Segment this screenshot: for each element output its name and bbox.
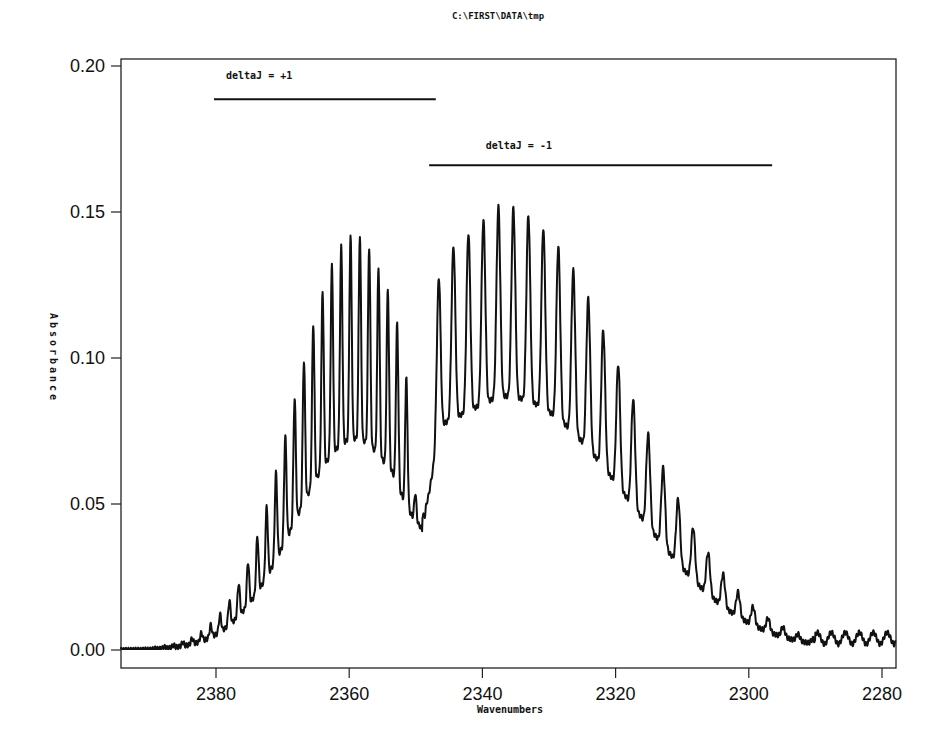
x-tick-label: 2340 (462, 684, 502, 704)
x-tick-label: 2360 (329, 684, 369, 704)
spectrum-chart: C:\FIRST\DATA\tmp 0.000.050.100.150.20 2… (0, 0, 939, 751)
y-axis: 0.000.050.100.150.20 (70, 56, 121, 660)
y-tick-label: 0.10 (70, 348, 105, 368)
y-axis-title: Absorbance (48, 313, 59, 403)
branch-label: deltaJ = -1 (486, 140, 552, 151)
x-tick-label: 2300 (729, 684, 769, 704)
chart-title: C:\FIRST\DATA\tmp (452, 11, 545, 21)
y-tick-label: 0.20 (70, 56, 105, 76)
x-tick-label: 2280 (862, 684, 902, 704)
x-axis-title: Wavenumbers (477, 704, 543, 715)
y-tick-label: 0.05 (70, 494, 105, 514)
svg-text:Absorbance: Absorbance (48, 313, 59, 403)
branch-label: deltaJ = +1 (226, 70, 292, 81)
y-tick-label: 0.00 (70, 640, 105, 660)
x-axis: 238023602340232023002280 (196, 668, 902, 704)
x-tick-label: 2320 (596, 684, 636, 704)
y-tick-label: 0.15 (70, 202, 105, 222)
x-tick-label: 2380 (196, 684, 236, 704)
